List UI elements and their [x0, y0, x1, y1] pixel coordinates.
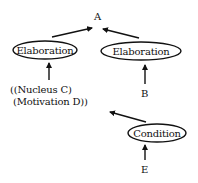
motivation-d-label: (Motivation D)) — [10, 96, 88, 107]
arrow-condition-to-nucleus — [110, 112, 146, 122]
condition-label: Condition — [128, 128, 186, 139]
elaboration-left-label: Elaboration — [13, 45, 77, 56]
elaboration-right-label: Elaboration — [103, 46, 179, 57]
arrow-elab-right-to-a — [103, 29, 139, 38]
nucleus-c-label: ((Nucleus C) — [10, 84, 72, 95]
leaf-b-label: B — [141, 88, 148, 99]
arrow-elab-left-to-a — [52, 28, 92, 37]
root-label-a: A — [94, 11, 101, 22]
rst-diagram: A Elaboration Elaboration Condition ((Nu… — [0, 0, 198, 183]
leaf-e-label: E — [141, 164, 148, 175]
